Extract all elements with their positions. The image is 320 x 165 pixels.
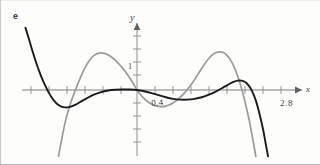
y-axis-arrow-icon bbox=[134, 23, 141, 30]
axes-group bbox=[22, 23, 302, 156]
root-label-two-point-eight: 2.8 bbox=[280, 99, 293, 108]
y-tick-label-one: 1 bbox=[128, 63, 132, 71]
root-label-zero-point-four: 0.4 bbox=[151, 98, 164, 108]
figure-panel: e y x 1 0.4 2.8 bbox=[0, 0, 320, 165]
x-axis-arrow-icon bbox=[295, 87, 302, 94]
plot-area bbox=[0, 0, 320, 165]
panel-label-e: e bbox=[13, 12, 18, 21]
x-axis-label: x bbox=[306, 85, 310, 94]
y-axis-label: y bbox=[130, 13, 134, 23]
